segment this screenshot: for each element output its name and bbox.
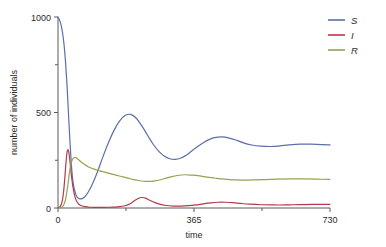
series-line-s (58, 17, 330, 199)
x-tick-label: 730 (322, 215, 337, 225)
y-axis-title: number of individuals (9, 69, 19, 155)
x-tick-label: 0 (55, 215, 60, 225)
tick-labels: 050010000365730 (31, 13, 338, 226)
y-tick-label: 1000 (31, 13, 51, 23)
legend-label-s: S (351, 15, 358, 26)
y-tick-label: 500 (36, 108, 51, 118)
series-lines (58, 17, 330, 208)
chart-figure: 050010000365730 timenumber of individual… (0, 0, 386, 247)
x-axis-title: time (185, 230, 202, 240)
axes (54, 17, 330, 212)
legend-label-r: R (351, 45, 358, 56)
y-tick-label: 0 (46, 204, 51, 214)
x-tick-label: 365 (186, 215, 201, 225)
legend-label-i: I (351, 30, 354, 41)
chart-legend: SIR (328, 15, 358, 56)
axis-titles: timenumber of individuals (9, 69, 203, 240)
sir-line-chart: 050010000365730 timenumber of individual… (0, 0, 386, 247)
series-line-r (58, 157, 330, 208)
